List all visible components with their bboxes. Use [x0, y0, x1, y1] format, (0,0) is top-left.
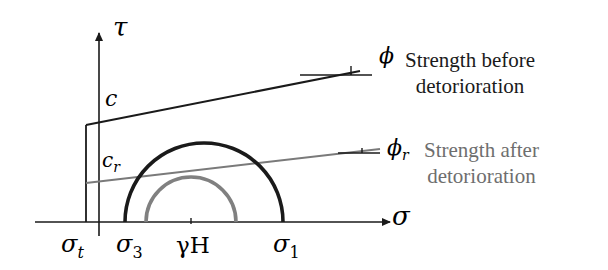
tau-axis-label: τ [113, 14, 127, 40]
sigma-axis-label: σ [392, 203, 410, 229]
legend-before-line1: Strength before [405, 50, 535, 71]
strength-envelope-before [86, 71, 360, 125]
sigma-3-sub: 3 [132, 243, 142, 262]
strength-envelope-after [86, 149, 380, 183]
sigma-1-sub: 1 [289, 243, 299, 262]
cohesion-after-sub: r [113, 159, 120, 175]
legend-before-line2: detorioration [405, 76, 535, 97]
mohr-circle-after [146, 177, 236, 222]
legend-before: Strength before detorioration [405, 50, 535, 97]
sigma-t-label: σt [61, 232, 84, 261]
sigma-3-base: σ [116, 230, 132, 258]
cohesion-before-label: c [105, 88, 117, 110]
sigma-t-sub: t [77, 243, 83, 262]
sigma-t-base: σ [61, 230, 77, 258]
mohr-coulomb-diagram [0, 0, 608, 270]
phi-label: ϕ [379, 45, 394, 67]
sigma-1-base: σ [273, 230, 289, 258]
cohesion-after-label: cr [102, 150, 120, 174]
gamma-h-label: γH [176, 234, 210, 257]
cohesion-after-base: c [102, 148, 113, 172]
legend-after-line2: detorioration [424, 166, 539, 187]
sigma-3-label: σ3 [116, 232, 143, 261]
phi-r-sub: r [402, 147, 409, 163]
phi-r-base: ϕ [387, 135, 402, 160]
phi-r-label: ϕr [387, 137, 409, 162]
legend-after: Strength after detorioration [424, 140, 539, 187]
legend-after-line1: Strength after [424, 140, 539, 161]
sigma-1-label: σ1 [273, 232, 300, 261]
